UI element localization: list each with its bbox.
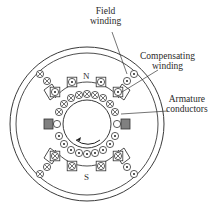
compensating-winding-line2: winding	[140, 61, 195, 71]
label-compensating-winding: Compensating winding	[140, 51, 195, 71]
armature-core	[63, 100, 111, 148]
compensating-winding-line1: Compensating	[140, 51, 195, 61]
label-armature-conductors: Armature conductors	[166, 94, 208, 114]
south-pole-label: S	[84, 172, 89, 182]
label-field-winding: Field winding	[90, 6, 121, 26]
armature-conductors-line2: conductors	[166, 104, 208, 114]
armature-conductors-line1: Armature	[166, 94, 208, 104]
north-pole-label: N	[83, 71, 90, 81]
field-winding-line1: Field	[90, 6, 121, 16]
leader-lines	[112, 32, 168, 114]
field-winding-line2: winding	[90, 16, 121, 26]
